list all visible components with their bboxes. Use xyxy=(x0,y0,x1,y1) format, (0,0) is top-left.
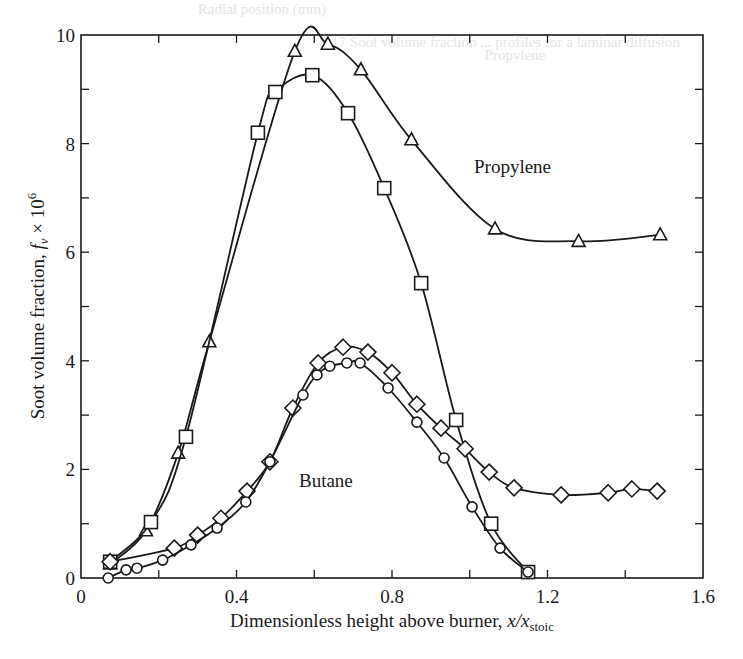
circle-marker xyxy=(132,563,142,573)
diamond-marker xyxy=(649,483,665,499)
curve-label-propylene: Propylene xyxy=(474,156,551,177)
triangle-marker xyxy=(654,228,667,240)
y-tick-label: 0 xyxy=(66,568,76,589)
y-tick-label: 10 xyxy=(56,25,75,46)
x-axis-title-main: Dimensionless height above burner, xyxy=(230,610,507,631)
x-tick-label: 0 xyxy=(76,586,86,607)
x-axis-title-variable: x/x xyxy=(506,610,530,631)
circle-marker xyxy=(342,358,352,368)
circle-marker xyxy=(158,555,168,565)
square-marker xyxy=(251,126,264,139)
triangle-marker xyxy=(288,44,301,56)
circle-marker xyxy=(383,383,393,393)
square-marker xyxy=(378,182,391,195)
x-axis-title-subscript: stoic xyxy=(529,619,554,634)
series-line xyxy=(110,347,657,562)
y-tick-label: 6 xyxy=(66,242,76,263)
circle-marker xyxy=(439,453,449,463)
soot-volume-fraction-chart: Radial position (mm)9.17 Soot volume fra… xyxy=(0,0,743,659)
curve-label-butane: Butane xyxy=(299,470,353,491)
y-axis-title: Soot volume fraction, fv × 106 xyxy=(24,192,51,419)
series-line xyxy=(110,75,528,572)
bleed-through-text-layer: Radial position (mm)9.17 Soot volume fra… xyxy=(198,1,681,63)
y-tick-label: 8 xyxy=(66,134,76,155)
x-tick-label: 1.6 xyxy=(691,586,715,607)
circle-marker xyxy=(298,390,308,400)
circle-marker xyxy=(523,567,533,577)
square-marker xyxy=(269,86,282,99)
diamond-marker xyxy=(624,481,640,497)
square-marker xyxy=(144,516,157,529)
diamond-marker xyxy=(506,480,522,496)
circle-marker xyxy=(467,502,477,512)
y-axis-title-main: Soot volume fraction, xyxy=(27,249,48,419)
x-tick-label: 1.2 xyxy=(536,586,560,607)
y-axis-title-superscript: 6 xyxy=(24,192,39,199)
circle-marker xyxy=(265,457,275,467)
circle-marker xyxy=(355,358,365,368)
curve-labels: PropyleneButane xyxy=(299,156,551,490)
y-tick-label: 2 xyxy=(66,459,76,480)
diamond-marker xyxy=(335,339,351,355)
diamond-marker xyxy=(600,485,616,501)
square-marker xyxy=(415,277,428,290)
x-axis-tick-labels: 00.40.81.21.6 xyxy=(76,586,715,607)
circle-marker xyxy=(121,565,131,575)
series-line xyxy=(110,26,660,563)
square-marker xyxy=(342,107,355,120)
circle-marker xyxy=(212,523,222,533)
data-series xyxy=(102,26,667,583)
x-tick-label: 0.8 xyxy=(380,586,404,607)
circle-marker xyxy=(495,543,505,553)
y-tick-label: 4 xyxy=(66,351,76,372)
bleed-through-text: Radial position (mm) xyxy=(198,1,326,18)
y-axis-title-suffix: × 10 xyxy=(27,199,48,238)
square-marker xyxy=(450,413,463,426)
circle-marker xyxy=(186,540,196,550)
diamond-marker xyxy=(553,487,569,503)
x-axis-title: Dimensionless height above burner, x/xst… xyxy=(230,610,554,634)
x-tick-label: 0.4 xyxy=(225,586,249,607)
circle-marker xyxy=(412,417,422,427)
series-diamond xyxy=(102,339,665,569)
series-triangle xyxy=(104,26,667,568)
y-axis-tick-labels: 0246810 xyxy=(56,25,76,589)
circle-marker xyxy=(103,573,113,583)
circle-marker xyxy=(312,370,322,380)
circle-marker xyxy=(241,497,251,507)
circle-marker xyxy=(325,361,335,371)
square-marker xyxy=(179,430,192,443)
bleed-through-text: Propylene xyxy=(485,47,546,63)
triangle-marker xyxy=(489,222,502,234)
square-marker xyxy=(306,69,319,82)
